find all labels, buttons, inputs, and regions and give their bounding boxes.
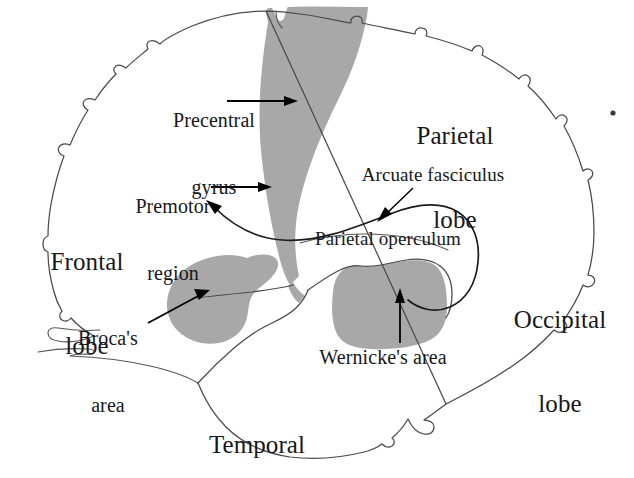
parietal-lobe-label-line1: Parietal xyxy=(388,122,522,150)
brain-diagram: Frontal lobe Parietal lobe Occipital lob… xyxy=(0,0,634,478)
occipital-lobe-label-line1: Occipital xyxy=(490,306,630,334)
brocas-area-label: Broca's area xyxy=(62,282,154,461)
temporal-lobe-label: Temporal lobe xyxy=(190,375,324,478)
occipital-lobe-label: Occipital lobe xyxy=(490,250,630,474)
parietal-operculum-label: Parietal operculum xyxy=(303,228,473,249)
brocas-area-label-line1: Broca's xyxy=(62,327,154,349)
scan-artifact-dot xyxy=(610,110,615,115)
precentral-gyrus-label-line1: Precentral xyxy=(158,109,270,131)
arcuate-fasciculus-label: Arcuate fasciculus xyxy=(348,164,518,185)
wernickes-area-label: Wernicke's area xyxy=(308,346,458,368)
premotor-region-label-line1: Premotor xyxy=(122,195,224,217)
brocas-area-label-line2: area xyxy=(62,394,154,416)
occipital-lobe-label-line2: lobe xyxy=(490,390,630,418)
temporal-lobe-label-line1: Temporal xyxy=(190,431,324,459)
premotor-region-label-line2: region xyxy=(122,262,224,284)
